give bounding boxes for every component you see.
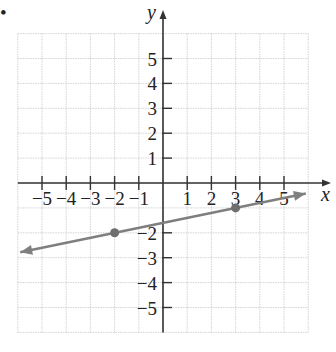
y-tick-label: 5 [148, 49, 158, 70]
y-tick-label: 1 [148, 148, 158, 169]
x-tick-label: 1 [182, 188, 192, 209]
y-tick-label: −5 [137, 298, 157, 319]
bullet-marker: • [0, 2, 7, 23]
y-tick-label: 3 [148, 98, 158, 119]
y-tick-label: 2 [148, 123, 158, 144]
x-tick-label: −3 [80, 188, 100, 209]
y-axis-arrow-icon [160, 10, 167, 19]
y-tick-label: 4 [148, 73, 158, 94]
x-tick-label: −5 [32, 188, 52, 209]
x-tick-label: 4 [255, 188, 265, 209]
y-tick-label: −4 [137, 273, 158, 294]
data-point [110, 228, 119, 237]
arrowhead-right-icon [293, 191, 306, 201]
data-point [231, 203, 240, 212]
x-axis-label: x [320, 183, 330, 205]
x-tick-label: −4 [56, 188, 77, 209]
x-tick-label: −2 [104, 188, 124, 209]
x-tick-label: −1 [129, 188, 149, 209]
coordinate-plane: • −5−4−3−2−112345 54321−2−3−4−5 x y [0, 0, 336, 352]
y-axis-label: y [145, 1, 156, 24]
arrowhead-left-icon [20, 245, 33, 255]
y-tick-label: −3 [137, 248, 157, 269]
x-tick-label: 2 [207, 188, 217, 209]
